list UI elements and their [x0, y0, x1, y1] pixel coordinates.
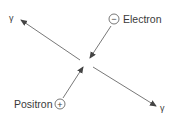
photon-arrow-bottom-right	[93, 67, 156, 106]
photon-label-bottom-right: γ	[160, 103, 165, 113]
positron-arrow	[63, 67, 83, 98]
electron-charge-symbol: −	[111, 14, 116, 24]
positron-charge-symbol: +	[57, 100, 62, 110]
photon-arrow-top-left	[21, 20, 80, 60]
positron: Positron +	[14, 98, 65, 110]
photon-label-top-left: γ	[9, 13, 14, 23]
annihilation-diagram: γ − Electron Positron + γ	[0, 0, 174, 120]
electron: − Electron	[109, 13, 162, 25]
positron-label: Positron	[14, 98, 53, 110]
electron-label: Electron	[123, 13, 162, 25]
electron-arrow	[90, 26, 111, 58]
